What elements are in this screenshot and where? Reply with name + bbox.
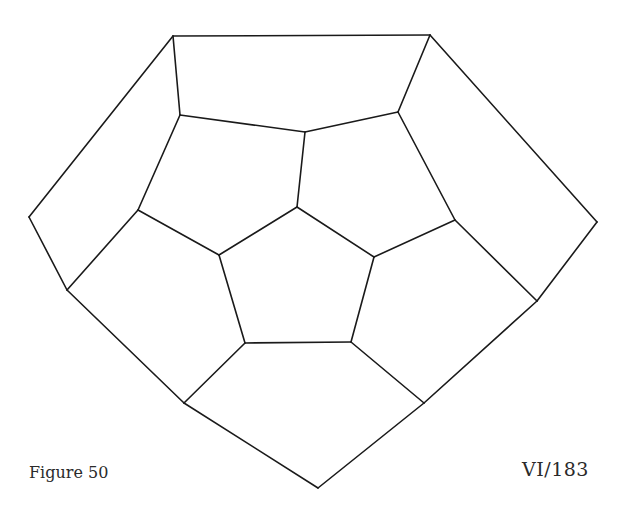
edge-F-G <box>29 217 67 290</box>
edge-G-Q <box>67 290 184 403</box>
edge-C-D <box>180 115 305 132</box>
edge-H-J <box>138 210 219 255</box>
edge-R-P <box>424 301 537 403</box>
edge-P-N <box>455 220 537 301</box>
edge-I-J <box>219 207 297 255</box>
edge-N-E <box>398 112 455 220</box>
figure-label: Figure 50 <box>29 465 108 481</box>
edge-M-R <box>351 342 424 403</box>
edge-B-O <box>430 35 597 222</box>
edge-A-F <box>29 36 173 217</box>
dodecahedron-figure <box>0 0 627 513</box>
edge-G-H <box>67 210 138 290</box>
edge-D-I <box>297 132 305 207</box>
figure-reference: VI/183 <box>522 460 589 479</box>
edge-A-C <box>173 36 180 115</box>
edge-Q-S <box>184 403 318 488</box>
edge-B-E <box>398 35 430 112</box>
edge-M-K <box>351 257 374 342</box>
edge-L-M <box>245 342 351 343</box>
edge-J-L <box>219 255 245 343</box>
edge-O-P <box>537 222 597 301</box>
edge-H-C <box>138 115 180 210</box>
edge-Q-L <box>184 343 245 403</box>
edge-R-S <box>318 403 424 488</box>
edge-A-B <box>173 35 430 36</box>
edge-K-N <box>374 220 455 257</box>
edge-I-K <box>297 207 374 257</box>
edge-D-E <box>305 112 398 132</box>
